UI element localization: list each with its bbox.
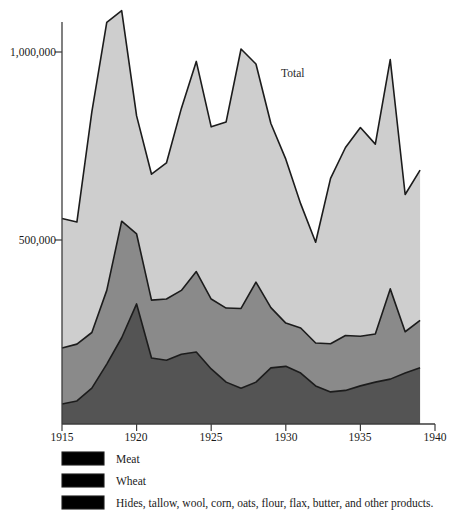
y-tick-label-1000000: 1,000,000	[10, 46, 56, 59]
legend-label-other-products: Hides, tallow, wool, corn, oats, flour, …	[116, 497, 434, 510]
x-tick-label-1920: 1920	[125, 431, 148, 443]
y-axis-labels: 1,000,000 500,000	[10, 46, 56, 247]
legend-swatch-meat	[62, 452, 104, 465]
y-tick-label-500000: 500,000	[19, 234, 57, 247]
legend-swatch-other-products	[62, 496, 104, 509]
x-tick-label-1930: 1930	[275, 431, 298, 443]
legend: Meat Wheat Hides, tallow, wool, corn, oa…	[62, 452, 434, 510]
x-tick-label-1935: 1935	[349, 431, 372, 443]
area-chart: 1,000,000 500,000 1915 1920 1925 1930 19…	[0, 0, 455, 522]
y-axis-ticks	[55, 52, 62, 240]
chart-container: 1,000,000 500,000 1915 1920 1925 1930 19…	[0, 0, 455, 522]
x-tick-label-1925: 1925	[200, 431, 223, 443]
legend-label-wheat: Wheat	[116, 475, 147, 487]
legend-swatch-wheat	[62, 474, 104, 487]
x-axis-labels: 1915 1920 1925 1930 1935 1940	[51, 431, 447, 443]
total-annotation-label: Total	[281, 67, 304, 79]
x-tick-label-1915: 1915	[51, 431, 74, 443]
legend-label-meat: Meat	[116, 453, 140, 465]
x-axis-ticks	[62, 424, 435, 431]
stacked-areas	[62, 11, 420, 424]
x-tick-label-1940: 1940	[424, 431, 447, 443]
